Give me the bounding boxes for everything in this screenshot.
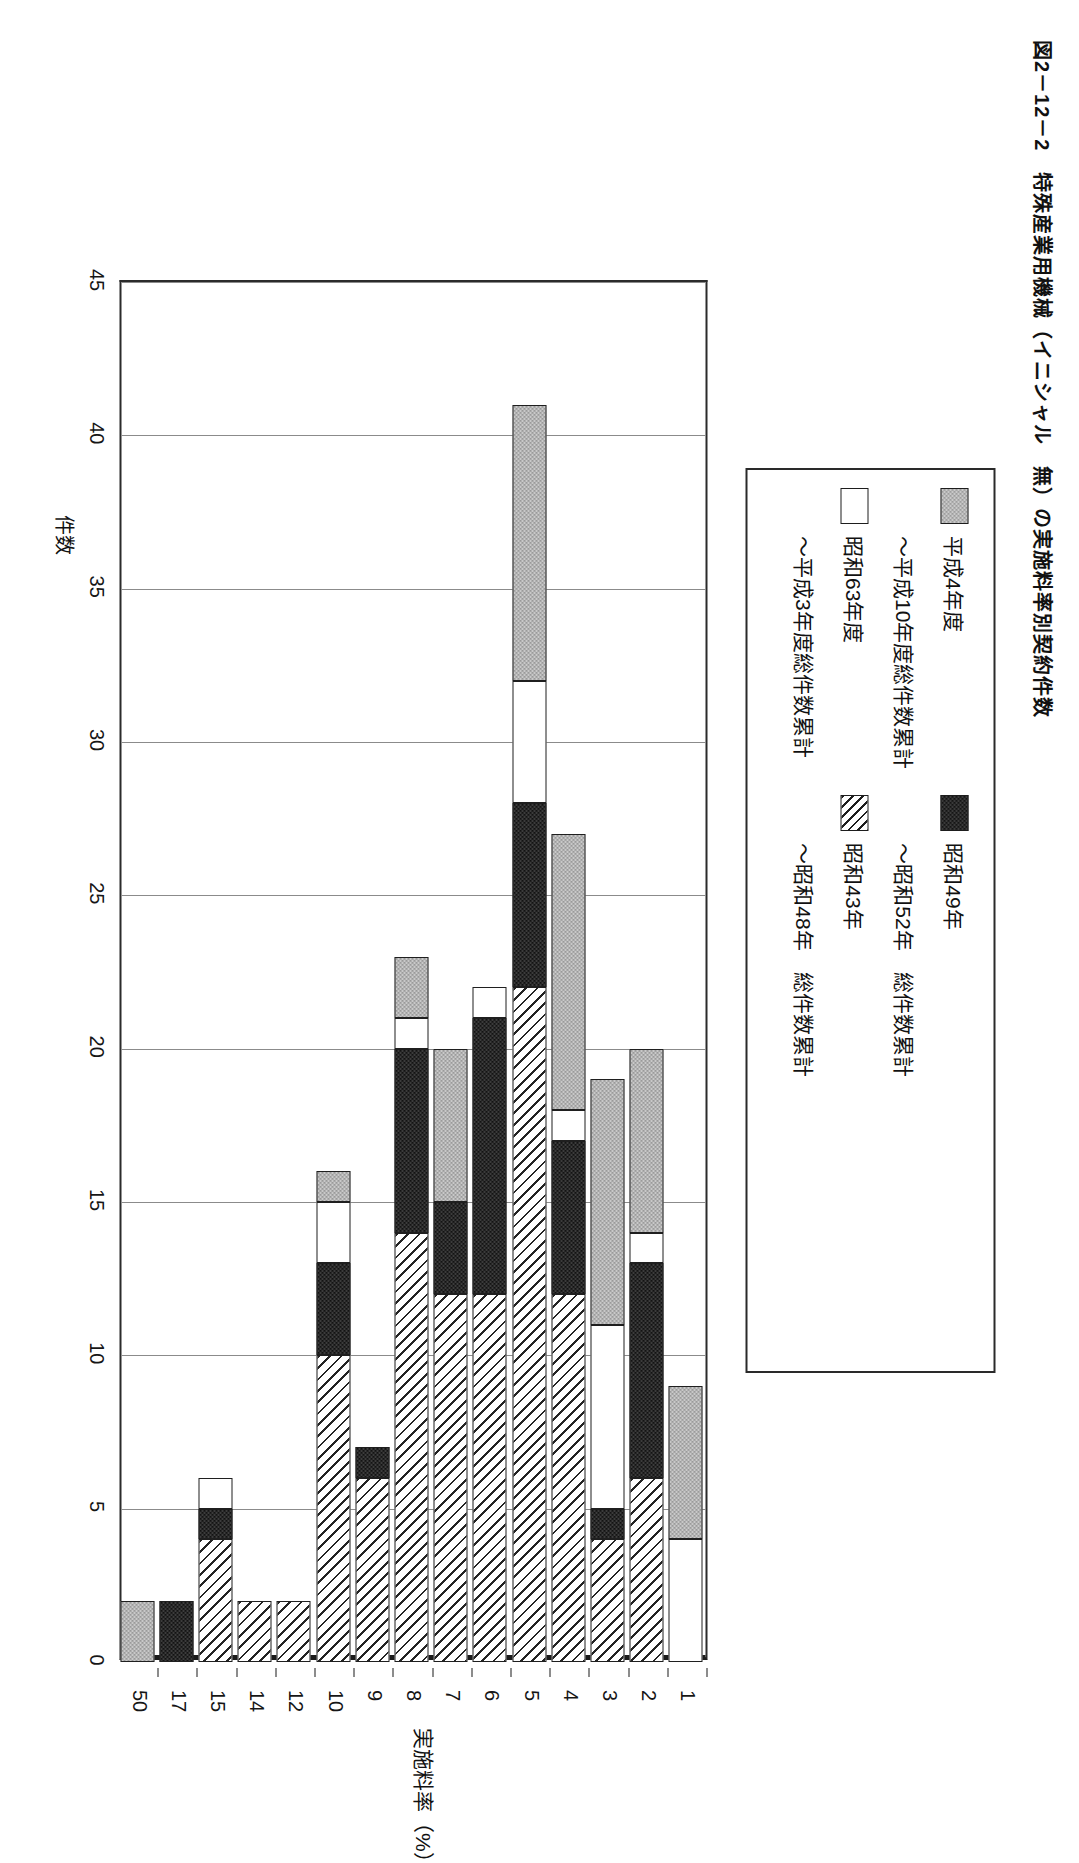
bar-group bbox=[551, 282, 585, 1662]
category-tick-mark bbox=[667, 1668, 668, 1677]
legend-item: ～平成10年度総件数累計 bbox=[879, 488, 929, 769]
bar-group bbox=[159, 282, 193, 1662]
bar-segment bbox=[590, 1509, 624, 1540]
category-tick-label: 15 bbox=[206, 1690, 229, 1712]
category-tick-mark bbox=[471, 1668, 472, 1677]
legend-item: ～平成3年度総件数累計 bbox=[779, 488, 829, 769]
bar-segment bbox=[316, 1202, 350, 1263]
category-tick-label: 12 bbox=[284, 1690, 307, 1712]
legend-item: 昭和63年度 bbox=[829, 488, 879, 769]
bar-segment bbox=[512, 803, 546, 987]
bar-segment bbox=[394, 1233, 428, 1662]
bar-group bbox=[433, 282, 467, 1662]
legend-item: 平成4年度 bbox=[929, 488, 979, 769]
legend-item: ～昭和48年 総件数累計 bbox=[779, 795, 829, 1076]
bar-group bbox=[237, 282, 271, 1662]
category-tick-mark bbox=[157, 1668, 158, 1677]
bar-segment bbox=[316, 1355, 350, 1662]
legend-swatch-icon bbox=[840, 488, 868, 524]
value-tick-label: 25 bbox=[84, 882, 107, 904]
bar-segment bbox=[159, 1601, 193, 1662]
chart-legend: 平成4年度～平成10年度総件数累計昭和63年度～平成3年度総件数累計昭和49年～… bbox=[745, 468, 995, 1373]
bar-group bbox=[316, 282, 350, 1662]
bar-segment bbox=[472, 987, 506, 1018]
category-tick-label: 4 bbox=[558, 1690, 581, 1701]
bar-group bbox=[355, 282, 389, 1662]
legend-item: ～昭和52年 総件数累計 bbox=[879, 795, 929, 1076]
value-axis-ticks: 051015202530354045 bbox=[77, 280, 107, 1660]
bar-segment bbox=[276, 1601, 310, 1662]
category-tick-label: 9 bbox=[362, 1690, 385, 1701]
bar-segment bbox=[198, 1509, 232, 1540]
bar-segment bbox=[590, 1539, 624, 1662]
legend-item-label: ～平成3年度総件数累計 bbox=[789, 536, 819, 758]
value-tick-label: 20 bbox=[84, 1036, 107, 1058]
bar-segment bbox=[433, 1202, 467, 1294]
legend-swatch-icon bbox=[940, 488, 968, 524]
value-tick-label: 35 bbox=[84, 576, 107, 598]
bar-segment bbox=[355, 1478, 389, 1662]
category-tick-label: 6 bbox=[480, 1690, 503, 1701]
bar-segment bbox=[629, 1233, 663, 1264]
bar-segment bbox=[198, 1539, 232, 1662]
value-tick-label: 15 bbox=[84, 1189, 107, 1211]
bar-segment bbox=[629, 1049, 663, 1233]
bar-segment bbox=[668, 1539, 702, 1662]
bar-group bbox=[198, 282, 232, 1662]
bar-segment bbox=[590, 1325, 624, 1509]
legend-item-label: 平成4年度 bbox=[939, 536, 969, 632]
value-tick-label: 40 bbox=[84, 422, 107, 444]
value-tick-label: 45 bbox=[84, 269, 107, 291]
bar-segment bbox=[512, 681, 546, 804]
bar-segment bbox=[316, 1263, 350, 1355]
category-tick-label: 10 bbox=[323, 1690, 346, 1712]
bar-segment bbox=[551, 1294, 585, 1662]
value-tick-label: 5 bbox=[84, 1501, 107, 1512]
legend-item-label: 昭和63年度 bbox=[839, 536, 869, 643]
plot-area bbox=[119, 280, 707, 1660]
category-tick-mark bbox=[353, 1668, 354, 1677]
category-tick-mark bbox=[706, 1668, 707, 1677]
bar-segment bbox=[629, 1263, 663, 1478]
category-tick-label: 14 bbox=[245, 1690, 268, 1712]
category-tick-mark bbox=[588, 1668, 589, 1677]
legend-swatch-icon bbox=[940, 795, 968, 831]
legend-item-label: ～平成10年度総件数累計 bbox=[889, 536, 919, 769]
category-tick-mark bbox=[275, 1668, 276, 1677]
legend-item-label: ～昭和48年 総件数累計 bbox=[789, 843, 819, 1076]
bar-segment bbox=[355, 1447, 389, 1478]
category-tick-label: 50 bbox=[127, 1690, 150, 1712]
bar-group bbox=[472, 282, 506, 1662]
category-tick-mark bbox=[510, 1668, 511, 1677]
bar-group bbox=[120, 282, 154, 1662]
category-tick-mark bbox=[392, 1668, 393, 1677]
bar-group bbox=[276, 282, 310, 1662]
category-tick-label: 3 bbox=[598, 1690, 621, 1701]
figure-title: 図2－12－2 特殊産業用機械（イニシャル 無）の実施料率別契約件数 bbox=[1028, 40, 1057, 719]
bar-segment bbox=[472, 1294, 506, 1662]
bar-segment bbox=[590, 1079, 624, 1324]
bar-segment bbox=[512, 405, 546, 681]
category-axis-title: 実施料率（%） bbox=[409, 1728, 439, 1863]
bar-segment bbox=[394, 1049, 428, 1233]
bar-segment bbox=[198, 1478, 232, 1509]
bar-group bbox=[629, 282, 663, 1662]
category-tick-label: 1 bbox=[676, 1690, 699, 1701]
value-axis-title: 件数 bbox=[50, 515, 79, 555]
legend-item: 昭和49年 bbox=[929, 795, 979, 1076]
bar-segment bbox=[551, 834, 585, 1110]
legend-item-label: 昭和49年 bbox=[939, 843, 969, 929]
plot-area-wrapper: 051015202530354045 件数 123456789101214151… bbox=[119, 280, 707, 1660]
bar-group bbox=[590, 282, 624, 1662]
category-tick-label: 8 bbox=[402, 1690, 425, 1701]
category-tick-mark bbox=[549, 1668, 550, 1677]
bar-group bbox=[394, 282, 428, 1662]
bar-segment bbox=[551, 1141, 585, 1294]
legend-item-label: 昭和43年 bbox=[839, 843, 869, 929]
bar-group bbox=[512, 282, 546, 1662]
value-tick-label: 30 bbox=[84, 729, 107, 751]
bar-segment bbox=[433, 1049, 467, 1202]
category-tick-mark bbox=[628, 1668, 629, 1677]
category-tick-label: 2 bbox=[637, 1690, 660, 1701]
